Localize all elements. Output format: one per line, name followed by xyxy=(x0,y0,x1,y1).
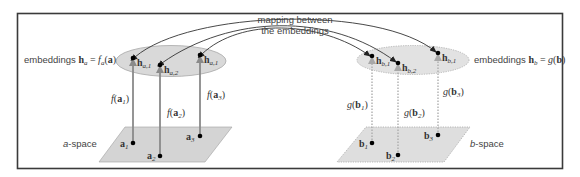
a3-point xyxy=(198,134,203,139)
f-a2-label: f(a2) xyxy=(167,107,185,120)
f-a1-label: f(a1) xyxy=(111,93,129,106)
a-space-plane xyxy=(99,127,232,162)
a1-point xyxy=(131,141,136,146)
b1-point xyxy=(370,141,375,146)
f-a3-label: f(a3) xyxy=(207,89,225,102)
h-b3-point xyxy=(436,51,441,56)
h-a1-point xyxy=(131,56,136,61)
h-b2-point xyxy=(396,61,401,66)
b-space-plane xyxy=(337,127,470,162)
h-a2-point xyxy=(158,63,163,68)
b3-point xyxy=(436,133,441,138)
b2-point xyxy=(396,153,401,158)
h-b1-point xyxy=(370,54,375,59)
h-a3-point xyxy=(198,53,203,58)
b-embedding-label: embeddings hb = g(b) xyxy=(474,54,565,67)
a-space-label: a-space xyxy=(63,138,97,149)
g-b3-label: g(b3) xyxy=(443,86,464,99)
b-space-label: b-space xyxy=(470,138,504,149)
a-embedding-label: embeddings ha = fa(a) xyxy=(24,54,116,67)
mapping-label-line1: mapping between xyxy=(258,14,333,25)
embedding-mapping-diagram: mapping between the embeddings embedding… xyxy=(0,0,580,177)
mapping-label-line2: the embeddings xyxy=(261,25,329,36)
g-b1-label: g(b1) xyxy=(347,99,368,112)
a2-point xyxy=(158,154,163,159)
g-b2-label: g(b2) xyxy=(404,107,425,120)
